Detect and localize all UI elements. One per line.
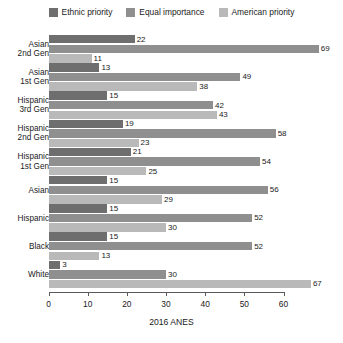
axis-tick: [49, 292, 50, 296]
plot-area: Asian 2nd Gen226911Asian 1st Gen134938Hi…: [0, 33, 343, 286]
bar: [49, 242, 253, 250]
bar: [49, 82, 198, 90]
bar-row: 56: [49, 186, 343, 194]
bar: [49, 120, 123, 128]
bar: [49, 148, 131, 156]
bar: [49, 223, 167, 231]
bar: [49, 111, 217, 119]
bar-row: 67: [49, 280, 343, 288]
category-label: Asian 1st Gen: [0, 68, 49, 86]
bar-row: 69: [49, 45, 343, 53]
bar-row: 54: [49, 157, 343, 165]
bar-row: 15: [49, 232, 343, 240]
category-label: Asian 2nd Gen: [0, 40, 49, 58]
axis-tick-label: 0: [46, 299, 51, 309]
bar: [49, 157, 261, 165]
bar-value-label: 58: [276, 129, 287, 138]
bar: [49, 139, 139, 147]
bar: [49, 252, 100, 260]
bar-row: 15: [49, 176, 343, 184]
bar-row: 42: [49, 101, 343, 109]
bar-value-label: 67: [311, 279, 322, 288]
bar-row: 30: [49, 270, 343, 278]
bar-row: 29: [49, 195, 343, 203]
bar-row: 3: [49, 261, 343, 269]
bar-value-label: 13: [99, 251, 110, 260]
bar-value-label: 25: [146, 167, 157, 176]
axis-tick: [166, 292, 167, 296]
square-swatch-icon: [49, 8, 58, 17]
bar-row: 19: [49, 120, 343, 128]
bar-row: 38: [49, 82, 343, 90]
square-swatch-icon: [219, 8, 228, 17]
bar: [49, 261, 61, 269]
square-swatch-icon: [126, 8, 135, 17]
legend-item: American priority: [219, 8, 295, 17]
bar-value-label: 69: [319, 44, 330, 53]
bar-value-label: 30: [166, 223, 177, 232]
axis-tick-label: 60: [279, 299, 288, 309]
bar: [49, 232, 108, 240]
bar-row: 52: [49, 214, 343, 222]
bar-value-label: 49: [240, 72, 251, 81]
bar-row: 43: [49, 111, 343, 119]
category-label: Hispanic 3rd Gen: [0, 96, 49, 114]
bar-value-label: 15: [107, 91, 118, 100]
legend-item: Equal importance: [126, 8, 204, 17]
x-axis: 0102030405060 2016 ANES: [0, 292, 343, 343]
bar-value-label: 21: [131, 147, 142, 156]
bar-value-label: 15: [107, 204, 118, 213]
bar-value-label: 38: [197, 82, 208, 91]
legend-label: Equal importance: [139, 8, 204, 17]
category-label: Black: [0, 242, 49, 251]
bar-value-label: 15: [107, 176, 118, 185]
bar-row: 23: [49, 139, 343, 147]
legend-label: American priority: [232, 8, 295, 17]
bar-value-label: 19: [123, 119, 134, 128]
bar-row: 13: [49, 252, 343, 260]
bar-stack: 134938: [49, 63, 343, 92]
bar-value-label: 52: [252, 213, 263, 222]
bar-stack: 226911: [49, 35, 343, 64]
bar-stack: 215425: [49, 148, 343, 177]
bar-row: 15: [49, 91, 343, 99]
bar: [49, 176, 108, 184]
bar: [49, 186, 268, 194]
bar-row: 25: [49, 167, 343, 175]
bar-row: 15: [49, 204, 343, 212]
bar-row: 21: [49, 148, 343, 156]
category-label: Hispanic: [0, 214, 49, 223]
bar: [49, 73, 241, 81]
bar: [49, 35, 135, 43]
bar-value-label: 52: [252, 242, 263, 251]
chart-legend: Ethnic priorityEqual importanceAmerican …: [0, 8, 343, 17]
bar-row: 13: [49, 63, 343, 71]
axis-tick-label: 20: [122, 299, 131, 309]
axis-tick-label: 30: [161, 299, 170, 309]
bar-stack: 33067: [49, 261, 343, 290]
bar-stack: 154243: [49, 91, 343, 120]
axis-tick: [205, 292, 206, 296]
bar-value-label: 3: [60, 260, 66, 269]
category-label: Asian: [0, 186, 49, 195]
bar-row: 49: [49, 73, 343, 81]
bar-value-label: 11: [92, 54, 102, 63]
bar-stack: 155213: [49, 232, 343, 261]
axis-tick: [127, 292, 128, 296]
bar-row: 58: [49, 129, 343, 137]
category-label: Hispanic 2nd Gen: [0, 124, 49, 142]
axis-tick-label: 50: [240, 299, 249, 309]
bar-value-label: 15: [107, 232, 118, 241]
bar: [49, 63, 100, 71]
axis-tick: [284, 292, 285, 296]
bar: [49, 54, 92, 62]
legend-label: Ethnic priority: [62, 8, 113, 17]
bar-row: 30: [49, 223, 343, 231]
bar-stack: 155230: [49, 204, 343, 233]
axis-tick: [88, 292, 89, 296]
axis-tick-label: 10: [83, 299, 92, 309]
bar-value-label: 54: [260, 157, 271, 166]
bar-stack: 155629: [49, 176, 343, 205]
bar-value-label: 22: [135, 35, 146, 44]
axis-title: 2016 ANES: [0, 317, 343, 327]
